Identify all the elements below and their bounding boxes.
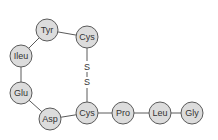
sulfur-label-1: S <box>84 62 90 72</box>
svg-text:Pro: Pro <box>116 108 130 118</box>
svg-text:Cys: Cys <box>79 32 95 42</box>
residue-cys-bottom: Cys <box>76 102 98 124</box>
residue-tyr: Tyr <box>36 19 58 41</box>
peptide-diagram: S S Tyr Cys Ileu Glu Asp Cys Pro Leu Gly <box>0 0 218 140</box>
residue-pro: Pro <box>112 102 134 124</box>
residue-leu: Leu <box>149 102 171 124</box>
sulfur-label-2: S <box>84 77 90 87</box>
residue-cys-top: Cys <box>76 26 98 48</box>
svg-text:Tyr: Tyr <box>41 25 54 35</box>
svg-text:Ileu: Ileu <box>14 51 29 61</box>
svg-text:Asp: Asp <box>42 114 58 124</box>
residue-ileu: Ileu <box>10 45 32 67</box>
residue-gly: Gly <box>181 102 203 124</box>
residue-glu: Glu <box>10 82 32 104</box>
svg-text:Glu: Glu <box>14 88 28 98</box>
svg-text:Gly: Gly <box>185 108 199 118</box>
svg-text:Leu: Leu <box>152 108 167 118</box>
residue-asp: Asp <box>39 108 61 130</box>
svg-text:Cys: Cys <box>79 108 95 118</box>
